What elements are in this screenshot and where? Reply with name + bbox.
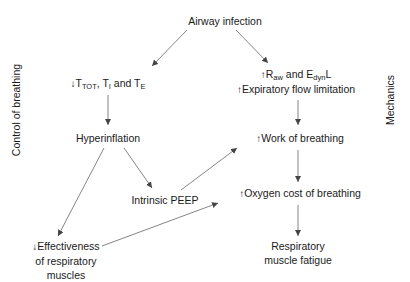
side-label-control-of-breathing: Control of breathing bbox=[10, 58, 22, 162]
node-fatigue: Respiratory muscle fatigue bbox=[264, 239, 332, 267]
fatigue-line-1: Respiratory bbox=[264, 239, 332, 253]
resistance-sub-aw: aw bbox=[273, 73, 283, 82]
node-timing: ↓TTOT, TI and TE bbox=[70, 76, 145, 91]
resistance-sub-dyn: dyn bbox=[313, 73, 325, 82]
oxygen-label: Oxygen cost of breathing bbox=[244, 187, 361, 199]
fatigue-line-2: muscle fatigue bbox=[264, 253, 332, 267]
node-airway-infection: Airway infection bbox=[188, 14, 262, 28]
hyperinflation-label: Hyperinflation bbox=[76, 132, 140, 144]
edge-effectiveness-to-oxygen bbox=[102, 203, 218, 246]
effectiveness-line-1: ↓Effectiveness bbox=[32, 239, 99, 254]
edge-peep-to-work bbox=[181, 148, 237, 190]
effectiveness-text-1: Effectiveness bbox=[37, 240, 99, 252]
side-label-mechanics: Mechanics bbox=[384, 70, 396, 130]
edge-hyperinflation-to-effectiveness bbox=[58, 148, 104, 236]
effectiveness-line-3: muscles bbox=[32, 268, 99, 282]
node-airway-infection-label: Airway infection bbox=[188, 15, 262, 27]
node-intrinsic-peep: Intrinsic PEEP bbox=[131, 193, 198, 207]
edge-infection-to-timing bbox=[152, 30, 187, 66]
resistance-line-2: ↑Expiratory flow limitation bbox=[237, 82, 355, 97]
peep-label: Intrinsic PEEP bbox=[131, 194, 198, 206]
node-oxygen-cost: ↑Oxygen cost of breathing bbox=[239, 186, 361, 201]
timing-sub-e: E bbox=[141, 82, 146, 91]
effectiveness-line-2: of respiratory bbox=[32, 254, 99, 268]
flow-limitation-label: Expiratory flow limitation bbox=[242, 83, 355, 95]
resistance-l: L bbox=[325, 68, 331, 80]
node-resistance: ↑Raw and EdynL ↑Expiratory flow limitati… bbox=[237, 67, 355, 97]
edge-hyperinflation-to-peep bbox=[124, 148, 152, 188]
edge-infection-to-resistance bbox=[236, 30, 268, 63]
node-work-of-breathing: ↑Work of breathing bbox=[256, 131, 344, 146]
node-hyperinflation: Hyperinflation bbox=[76, 131, 140, 145]
work-label: Work of breathing bbox=[261, 132, 344, 144]
resistance-e: and E bbox=[283, 68, 313, 80]
node-effectiveness: ↓Effectiveness of respiratory muscles bbox=[32, 239, 99, 282]
timing-t-e: and T bbox=[111, 77, 141, 89]
timing-t-i: , T bbox=[97, 77, 109, 89]
timing-sub-tot: TOT bbox=[82, 82, 97, 91]
resistance-line-1: ↑Raw and EdynL bbox=[237, 67, 355, 82]
